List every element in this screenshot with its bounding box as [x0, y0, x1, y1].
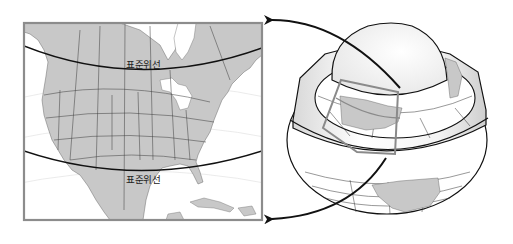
standard-parallel-label-bottom: 표준위선 — [126, 172, 161, 186]
conic-projection-diagram — [0, 0, 513, 244]
standard-parallel-label-top: 표준위선 — [126, 57, 161, 71]
polar-cap — [332, 23, 447, 95]
map-panel — [10, 23, 270, 220]
globe-panel — [287, 23, 488, 214]
